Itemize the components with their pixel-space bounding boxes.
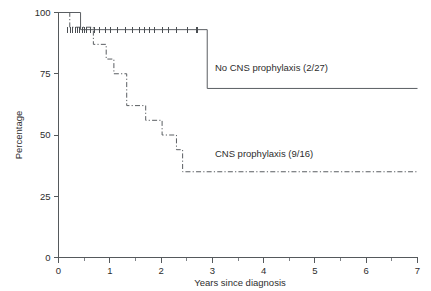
x-tick-label-6: 6 [364, 265, 369, 276]
x-tick-label-0: 0 [56, 265, 61, 276]
y-tick-label-100: 100 [35, 7, 51, 18]
series-label-0: No CNS prophylaxis (2/27) [215, 62, 328, 73]
y-tick-label-0: 0 [45, 252, 50, 263]
y-axis-ticks: 0255075100 [35, 7, 59, 263]
y-tick-label-25: 25 [40, 191, 51, 202]
curve-series-0 [59, 13, 418, 89]
x-axis-ticks: 01234567 [56, 258, 420, 276]
x-tick-label-7: 7 [415, 265, 420, 276]
series-label-1: CNS prophylaxis (9/16) [215, 148, 313, 159]
y-tick-label-50: 50 [40, 129, 51, 140]
x-tick-label-4: 4 [261, 265, 266, 276]
y-axis-title: Percentage [13, 111, 24, 160]
x-axis-title: Years since diagnosis [194, 277, 286, 288]
y-tick-label-75: 75 [40, 68, 51, 79]
x-tick-label-5: 5 [312, 265, 317, 276]
survival-chart-figure: 0255075100 01234567 No CNS prophylaxis (… [0, 0, 431, 291]
chart-canvas: 0255075100 01234567 No CNS prophylaxis (… [0, 0, 431, 291]
series-labels: No CNS prophylaxis (2/27)CNS prophylaxis… [215, 62, 328, 159]
x-tick-label-3: 3 [210, 265, 215, 276]
x-tick-label-2: 2 [158, 265, 163, 276]
axes-group [59, 13, 418, 258]
x-tick-label-1: 1 [107, 265, 112, 276]
